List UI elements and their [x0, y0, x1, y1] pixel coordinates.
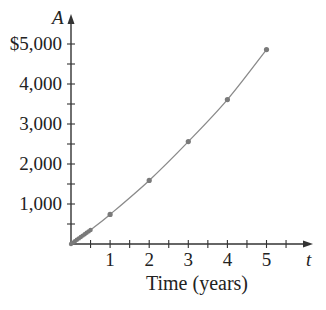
y-tick-label: 1,000	[19, 193, 62, 214]
y-tick-label: 4,000	[19, 73, 62, 94]
y-axis-arrow-icon	[68, 14, 75, 24]
x-tick-label: 2	[144, 249, 154, 270]
data-point	[225, 97, 230, 102]
x-tick-label: 4	[223, 249, 233, 270]
x-axis-title: Time (years)	[146, 272, 248, 295]
growth-chart: 123451,0002,0003,0004,000$5,000 A t Time…	[0, 0, 326, 310]
ticks	[67, 44, 286, 248]
data-point	[88, 228, 92, 232]
y-tick-label: 2,000	[19, 153, 62, 174]
x-tick-label: 3	[184, 249, 194, 270]
x-axis-variable: t	[306, 249, 312, 270]
data-point	[108, 212, 113, 217]
x-tick-label: 1	[105, 249, 115, 270]
tick-labels: 123451,0002,0003,0004,000$5,000	[10, 33, 272, 270]
x-axis-arrow-icon	[303, 241, 313, 248]
data-points	[69, 47, 269, 246]
y-tick-label: 3,000	[19, 113, 62, 134]
y-tick-label: $5,000	[10, 33, 62, 54]
data-curve	[71, 50, 267, 244]
data-point	[186, 139, 191, 144]
growth-curve	[71, 50, 267, 244]
axes	[68, 14, 314, 248]
data-point	[264, 47, 269, 52]
x-tick-label: 5	[262, 249, 272, 270]
y-axis-variable: A	[50, 7, 64, 28]
data-point	[147, 178, 152, 183]
